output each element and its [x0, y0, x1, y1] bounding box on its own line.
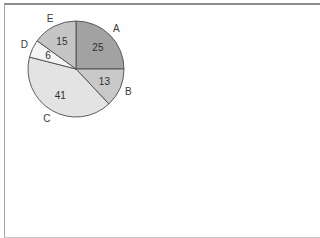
slice-value-label-C: 41	[55, 90, 67, 101]
slice-category-label-B: B	[125, 86, 132, 97]
slice-value-label-A: 25	[92, 42, 104, 53]
slice-category-label-A: A	[113, 23, 120, 34]
slice-value-label-D: 6	[45, 50, 51, 61]
slice-category-label-C: C	[43, 113, 50, 124]
slice-category-label-D: D	[21, 39, 28, 50]
pie-chart: 25A13B41C6D15E	[0, 0, 153, 136]
slice-category-label-E: E	[47, 13, 54, 24]
slice-value-label-E: 15	[56, 36, 68, 47]
slice-value-label-B: 13	[99, 76, 111, 87]
